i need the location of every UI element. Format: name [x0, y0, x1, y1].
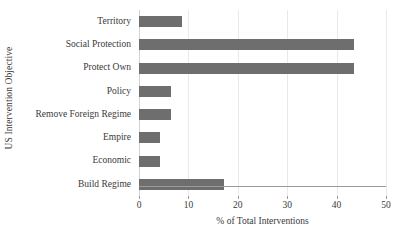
y-axis-title-text: US Intervention Objective: [4, 47, 14, 150]
bar-series: [139, 10, 386, 196]
bar-territory: [139, 16, 182, 27]
x-axis-title: % of Total Interventions: [139, 216, 386, 226]
y-axis-tick-label: Protect Own: [18, 57, 136, 80]
y-axis-tick-labels: Territory Social Protection Protect Own …: [18, 10, 136, 196]
bar-empire: [139, 132, 160, 143]
x-axis-tick-mark: [188, 196, 189, 199]
bar-row: [139, 10, 386, 33]
y-axis-title: US Intervention Objective: [0, 0, 18, 196]
bar-row: [139, 33, 386, 56]
x-axis-tick-label: 0: [137, 200, 142, 210]
bar-remove-foreign-regime: [139, 109, 171, 120]
bar-row: [139, 57, 386, 80]
x-axis-tick-label: 20: [233, 200, 243, 210]
x-axis-tick-label: 50: [381, 200, 391, 210]
x-axis-tick-label: 10: [184, 200, 194, 210]
bar-protect-own: [139, 63, 354, 74]
bar-row: [139, 126, 386, 149]
y-axis-tick-label: Territory: [18, 10, 136, 33]
y-axis-tick-label: Empire: [18, 126, 136, 149]
bar-row: [139, 80, 386, 103]
x-axis-tick-labels: 01020304050: [139, 200, 386, 214]
y-axis-tick-label: Build Regime: [18, 173, 136, 196]
bar-policy: [139, 86, 171, 97]
x-axis-tick-label: 40: [332, 200, 342, 210]
bar-social-protection: [139, 39, 354, 50]
y-axis-tick-label: Policy: [18, 80, 136, 103]
plot-area: [139, 10, 386, 196]
gridline: [386, 10, 387, 196]
x-axis-tick-mark: [287, 196, 288, 199]
y-axis-tick-label: Economic: [18, 150, 136, 173]
x-axis-tick-mark: [238, 196, 239, 199]
x-axis-tick-mark: [386, 196, 387, 199]
bar-chart: US Intervention Objective Territory Soci…: [0, 0, 413, 242]
x-axis-tick-mark: [139, 196, 140, 199]
bar-row: [139, 150, 386, 173]
y-axis-tick-label: Social Protection: [18, 33, 136, 56]
bar-row: [139, 173, 386, 196]
x-axis-line: [139, 186, 386, 187]
x-axis-tick-label: 30: [282, 200, 292, 210]
bar-economic: [139, 156, 160, 167]
y-axis-tick-label: Remove Foreign Regime: [18, 103, 136, 126]
bar-row: [139, 103, 386, 126]
bar-build-regime: [139, 179, 224, 190]
x-axis-tick-mark: [337, 196, 338, 199]
